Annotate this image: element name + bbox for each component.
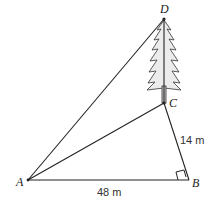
geometry-diagram: D C B A 14 m 48 m — [0, 0, 217, 204]
segment-ad — [28, 19, 164, 180]
label-a: A — [15, 175, 24, 189]
segment-ac — [28, 103, 164, 180]
label-b: B — [192, 176, 200, 190]
measure-bc: 14 m — [180, 134, 204, 146]
measure-ab: 48 m — [97, 186, 121, 198]
label-d: D — [159, 2, 169, 16]
point-d — [162, 17, 165, 20]
right-angle-marker — [176, 170, 186, 180]
point-a — [27, 179, 30, 182]
point-c — [162, 101, 165, 104]
label-c: C — [169, 96, 178, 110]
